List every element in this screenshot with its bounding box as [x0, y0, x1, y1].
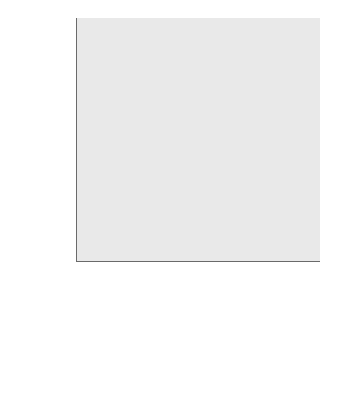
risk-table-heading-row	[0, 305, 349, 318]
chart-data-layer	[0, 0, 349, 300]
subjects-at-risk-table	[0, 300, 349, 404]
chart-page	[0, 0, 349, 404]
survival-chart	[0, 0, 349, 300]
